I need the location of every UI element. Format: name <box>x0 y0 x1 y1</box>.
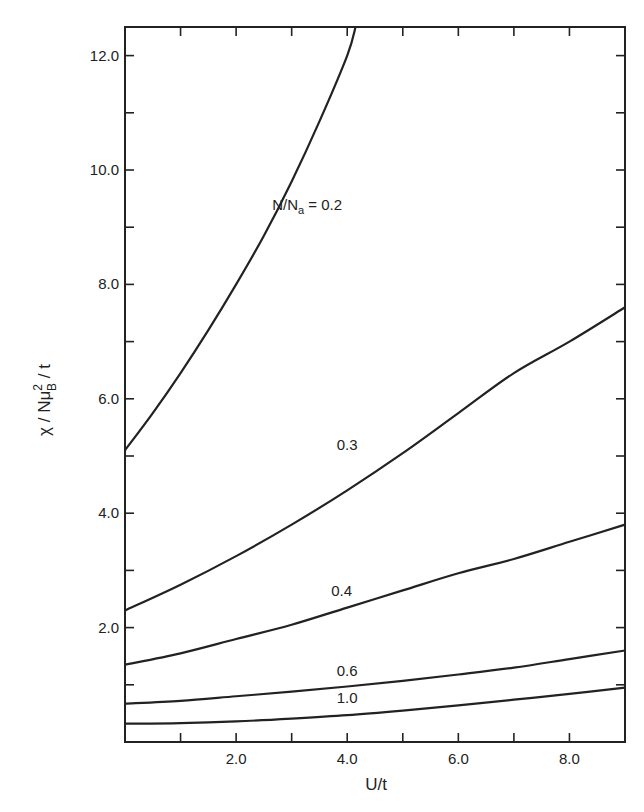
curve-label: 0.6 <box>337 662 358 679</box>
x-tick-label: 6.0 <box>448 750 469 767</box>
curves <box>125 27 625 724</box>
curve-0-2 <box>125 27 356 450</box>
x-tick-label: 8.0 <box>559 750 580 767</box>
curve-1-0 <box>125 688 625 724</box>
curve-labels: N/Na = 0.20.30.40.61.0 <box>272 196 357 706</box>
x-tick-label: 4.0 <box>337 750 358 767</box>
y-axis-title: χ / Nμ2B / t <box>31 364 59 436</box>
curve-label: N/Na = 0.2 <box>272 196 342 216</box>
y-axis-title-text: χ / Nμ2B / t <box>31 364 59 436</box>
curve-label: 0.4 <box>331 582 352 599</box>
chart-figure: 2.04.06.08.02.04.06.08.010.012.0 N/Na = … <box>0 0 644 812</box>
x-axis-title: U/t <box>365 775 387 794</box>
curve-label: 1.0 <box>337 689 358 706</box>
y-tick-label: 2.0 <box>98 619 119 636</box>
plot-border <box>125 27 625 742</box>
y-tick-label: 6.0 <box>98 390 119 407</box>
y-tick-label: 12.0 <box>90 47 119 64</box>
curve-0-3 <box>125 307 625 610</box>
y-tick-label: 4.0 <box>98 504 119 521</box>
curve-label: 0.3 <box>337 436 358 453</box>
plot-frame <box>125 27 625 742</box>
y-tick-label: 8.0 <box>98 275 119 292</box>
y-tick-label: 10.0 <box>90 161 119 178</box>
x-tick-label: 2.0 <box>226 750 247 767</box>
curve-0-4 <box>125 525 625 665</box>
